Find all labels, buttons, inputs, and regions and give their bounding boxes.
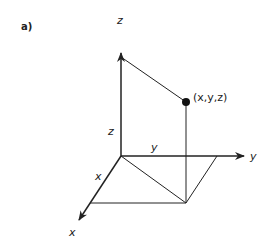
- point-marker: [182, 98, 190, 106]
- z-axis-label: z: [116, 14, 123, 27]
- x-axis: [79, 156, 121, 220]
- x-axis-label: x: [68, 226, 76, 239]
- x-segment-label: x: [94, 170, 102, 183]
- panel-label: a): [21, 21, 32, 32]
- z-projection-line: [121, 57, 186, 102]
- coordinate-diagram: a) z y x (x,y,z) z y x: [0, 0, 270, 243]
- point-label: (x,y,z): [193, 91, 227, 104]
- base-y-parallel-line: [186, 156, 217, 203]
- y-axis-label: y: [249, 150, 257, 163]
- z-segment-label: z: [107, 125, 114, 138]
- y-segment-label: y: [150, 141, 158, 154]
- base-diagonal-line: [121, 156, 186, 203]
